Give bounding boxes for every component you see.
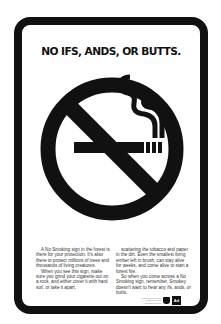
body-column-left: A No Smoking sign in the forest is there… [36, 247, 111, 296]
body-paragraph: A No Smoking sign in the forest is there… [36, 247, 111, 269]
body-paragraph: scattering the tobacco and paper in the … [116, 247, 191, 274]
forest-service-shield-icon [163, 297, 170, 304]
credits: A Public Service of This Magazine & The … [139, 296, 181, 305]
body-paragraph: So when you come across a No Smoking sig… [116, 274, 191, 296]
ad-council-logo-icon: Ad [172, 296, 181, 305]
body-copy: A No Smoking sign in the forest is there… [36, 247, 191, 296]
fine-print: A Public Service of This Magazine & The … [139, 297, 161, 304]
poster-frame: NO IFS, ANDS, OR BUTTS. A No Smoking sig… [14, 17, 208, 314]
body-paragraph: When you see this sign, make sure you gr… [36, 269, 111, 291]
no-smoking-icon [32, 71, 192, 231]
headline: NO IFS, ANDS, OR BUTTS. [22, 45, 200, 57]
body-column-right: scattering the tobacco and paper in the … [116, 247, 191, 296]
